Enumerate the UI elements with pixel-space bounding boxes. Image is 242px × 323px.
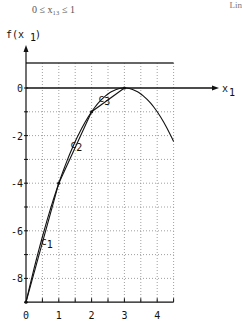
y-tick-label: -4 — [11, 178, 23, 189]
chord-point — [57, 182, 60, 185]
curve-label-subscript: 1 — [47, 239, 53, 250]
x-tick-label: 4 — [154, 310, 160, 321]
series — [24, 86, 173, 303]
labels: 012340-2-4-6-8f(x1)x1c1c2c3 — [6, 29, 235, 321]
chart: 012340-2-4-6-8f(x1)x1c1c2c3 — [0, 0, 242, 323]
y-axis-label: f(x — [6, 29, 24, 40]
x-tick-label: 1 — [56, 310, 62, 321]
y-tick-label: 0 — [17, 83, 23, 94]
chord-point — [123, 86, 126, 89]
x-tick-label: 2 — [89, 310, 95, 321]
x-axis-label-subscript: 1 — [229, 87, 235, 98]
y-axis-label-close: ) — [35, 29, 41, 40]
y-tick-label: -8 — [11, 273, 23, 284]
curve-f — [26, 88, 174, 302]
chord-point — [90, 110, 93, 113]
y-tick-label: -6 — [11, 226, 23, 237]
axes — [24, 45, 220, 302]
x-axis-label: x — [222, 83, 228, 94]
chord-point — [24, 301, 27, 304]
curve-label-subscript: 2 — [76, 142, 82, 153]
x-axis-arrow-icon — [212, 86, 219, 91]
x-tick-label: 3 — [121, 310, 127, 321]
y-axis-arrow-icon — [24, 45, 29, 52]
curve-label-subscript: 3 — [104, 96, 110, 107]
x-tick-label: 0 — [23, 310, 29, 321]
y-tick-label: -2 — [11, 131, 23, 142]
